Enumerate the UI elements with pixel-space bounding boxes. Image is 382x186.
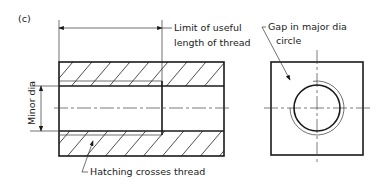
- figure-label: (c): [18, 13, 31, 24]
- hatching-label: Hatching crosses thread: [90, 166, 205, 177]
- body-outline: [59, 62, 224, 156]
- gap-label-line2: circle: [276, 35, 301, 46]
- threaded-hole-drawing: (c): [0, 0, 382, 186]
- limit-label-line2: length of thread: [174, 37, 251, 48]
- end-view: [262, 27, 370, 162]
- gap-label-line1: Gap in major dia: [268, 21, 347, 32]
- hatching-bottom: [40, 126, 245, 166]
- limit-label-line1: Limit of useful: [174, 22, 242, 33]
- minor-dia-label: Minor dia: [26, 81, 37, 125]
